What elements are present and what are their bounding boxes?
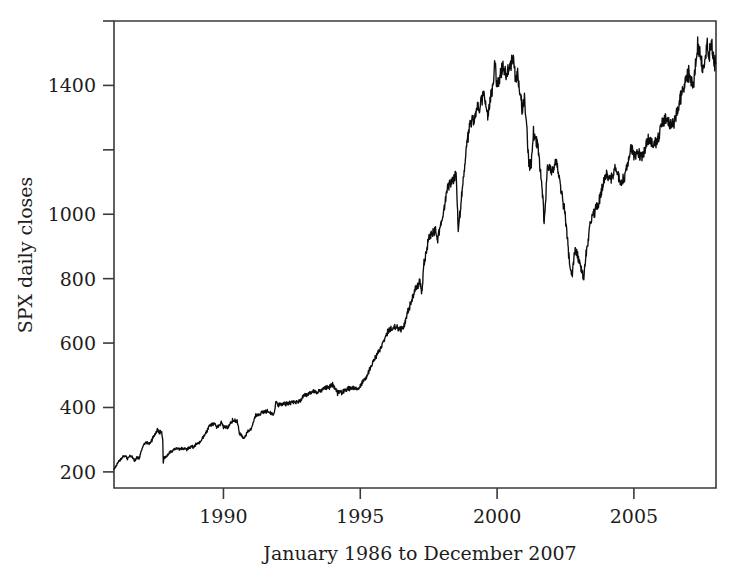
y-tick-label: 600	[60, 332, 96, 354]
y-tick-label: 1400	[48, 74, 96, 96]
data-series-spx	[114, 37, 716, 470]
x-tick-label: 2000	[473, 505, 521, 527]
x-tick-label: 1990	[199, 505, 247, 527]
x-axis-title: January 1986 to December 2007	[261, 542, 576, 564]
x-tick-label: 2005	[610, 505, 658, 527]
y-tick-label: 200	[60, 461, 96, 483]
y-tick-label: 800	[60, 268, 96, 290]
plot-border	[114, 21, 716, 488]
series-line	[114, 37, 716, 470]
y-axis-title: SPX daily closes	[14, 177, 36, 334]
y-tick-label: 400	[60, 396, 96, 418]
y-axis-ticks	[103, 21, 114, 472]
plot-frame	[114, 21, 716, 488]
spx-chart-figure: 20040060080010001400 1990199520002005 SP…	[0, 0, 732, 588]
x-axis-tick-labels: 1990199520002005	[199, 505, 658, 527]
x-tick-label: 1995	[336, 505, 384, 527]
y-axis-tick-labels: 20040060080010001400	[48, 74, 96, 482]
chart-canvas: 20040060080010001400 1990199520002005 SP…	[0, 0, 732, 588]
y-tick-label: 1000	[48, 203, 96, 225]
x-axis-ticks	[223, 488, 633, 499]
